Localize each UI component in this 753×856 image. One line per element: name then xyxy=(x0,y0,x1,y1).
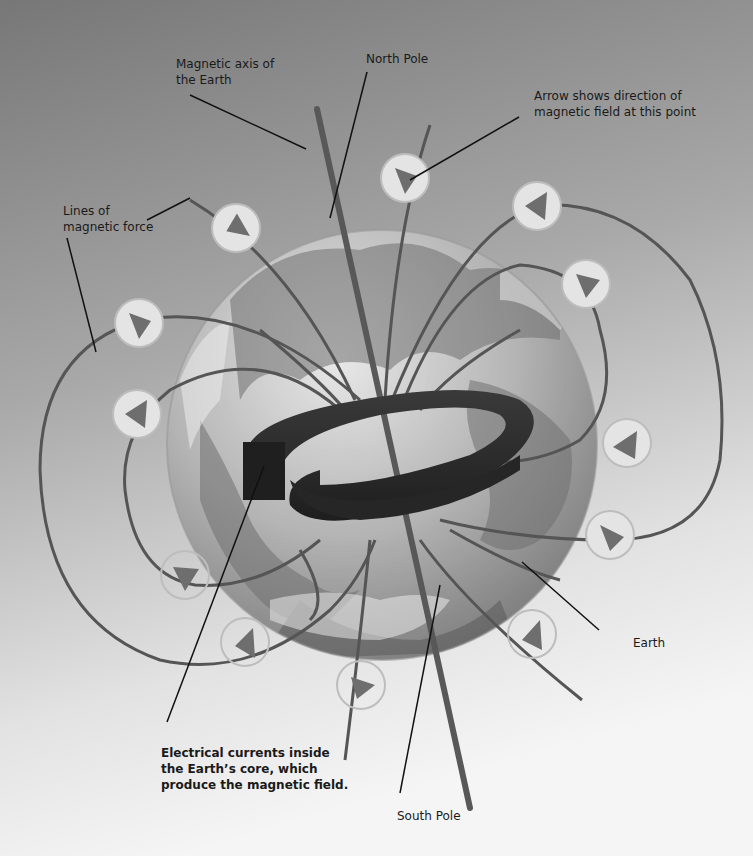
magnetic-field-diagram: Magnetic axis of the Earth North Pole Ar… xyxy=(0,0,753,856)
arrow-marker xyxy=(381,154,429,202)
arrow-marker xyxy=(603,419,651,467)
arrow-marker xyxy=(113,390,161,438)
arrow-marker xyxy=(115,299,163,347)
label-electrical-currents: Electrical currents inside the Earth’s c… xyxy=(161,745,348,793)
arrow-marker xyxy=(513,182,561,230)
label-south-pole: South Pole xyxy=(397,808,461,824)
label-magnetic-axis: Magnetic axis of the Earth xyxy=(176,56,274,88)
label-lines-of-force: Lines of magnetic force xyxy=(63,203,153,235)
earth-globe xyxy=(167,230,597,660)
label-north-pole: North Pole xyxy=(366,51,428,67)
arrow-marker xyxy=(212,204,260,252)
arrow-marker xyxy=(562,260,610,308)
arrow-marker xyxy=(586,511,634,559)
label-earth: Earth xyxy=(633,635,665,651)
label-arrow-direction: Arrow shows direction of magnetic field … xyxy=(534,88,696,120)
diagram-canvas xyxy=(0,0,753,856)
